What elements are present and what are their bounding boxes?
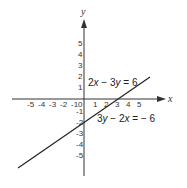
x-tick: 3	[115, 100, 120, 109]
x-tick: -4	[38, 100, 46, 109]
y-axis-arrow-icon	[81, 19, 87, 28]
y-tick: -4	[76, 140, 84, 149]
y-tick: 4	[78, 50, 83, 59]
y-tick: 5	[78, 39, 83, 48]
x-tick: 4	[126, 100, 131, 109]
x-axis-label: x	[167, 93, 173, 104]
y-tick: -5	[76, 151, 84, 160]
y-tick: -1	[76, 107, 84, 116]
y-tick: 1	[78, 83, 83, 92]
x-tick: 1	[93, 100, 98, 109]
x-tick: -2	[60, 100, 68, 109]
x-tick: -3	[49, 100, 57, 109]
y-tick: -3	[76, 129, 84, 138]
x-axis-arrow-icon	[157, 96, 166, 102]
y-tick: 2	[78, 72, 83, 81]
equation-label-2: 3y − 2x = − 6	[97, 113, 156, 124]
equation-label-1: 2x − 3y = 6	[88, 77, 138, 88]
x-tick: -5	[27, 100, 35, 109]
coordinate-plane: x y -5 -4 -3 -2 -1 0 1 2 3 4 5 5 4 3 2 1…	[0, 0, 187, 188]
x-tick: 5	[137, 100, 142, 109]
y-axis-label: y	[80, 6, 86, 17]
y-tick: 3	[78, 61, 83, 70]
